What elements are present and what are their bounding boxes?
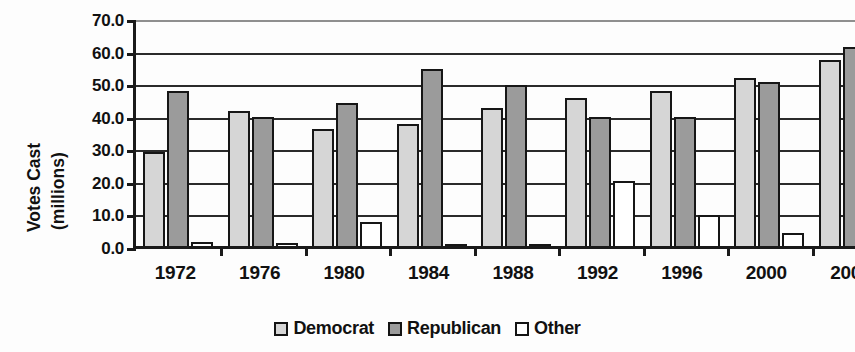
- bar-republican-1992: [589, 117, 611, 246]
- legend-swatch-democrat-icon: [274, 322, 288, 336]
- x-axis-tick-label-1984: 1984: [408, 262, 449, 284]
- bar-democrat-1984: [397, 124, 419, 246]
- plot-area: [133, 21, 855, 249]
- x-axis-tick-mark: [305, 246, 308, 256]
- bar-other-1992: [613, 181, 635, 246]
- bar-democrat-1992: [565, 98, 587, 246]
- x-axis-tick-label-1980: 1980: [324, 262, 365, 284]
- bar-republican-1976: [252, 117, 274, 246]
- legend-swatch-republican-icon: [388, 322, 402, 336]
- y-axis-tick-label: 20.0: [92, 174, 124, 194]
- chart-legend: DemocratRepublicanOther: [0, 318, 855, 339]
- bar-group-1976: [220, 21, 304, 246]
- x-axis-tick-label-1972: 1972: [155, 262, 196, 284]
- bar-group-2000: [727, 21, 811, 246]
- bar-republican-1988: [505, 85, 527, 246]
- bar-other-1996: [698, 215, 720, 246]
- bar-democrat-1972: [143, 152, 165, 246]
- legend-label: Democrat: [293, 318, 374, 339]
- bar-other-2000: [782, 233, 804, 246]
- bar-republican-1980: [336, 103, 358, 246]
- x-axis-tick-mark: [727, 246, 730, 256]
- bar-other-1972: [191, 242, 213, 246]
- y-axis-tick-mark: [127, 20, 136, 23]
- bar-group-1980: [305, 21, 389, 246]
- x-axis-tick-labels: 197219761980198419881992199620002004: [133, 262, 855, 292]
- bar-democrat-2000: [734, 78, 756, 246]
- y-axis-tick-mark: [127, 53, 136, 56]
- legend-item-democrat[interactable]: Democrat: [274, 318, 374, 339]
- bar-other-1988: [529, 244, 551, 246]
- bar-republican-2000: [758, 82, 780, 246]
- x-axis-tick-label-1992: 1992: [577, 262, 618, 284]
- bar-other-1976: [276, 243, 298, 246]
- x-axis-tick-label-2000: 2000: [746, 262, 787, 284]
- y-axis-tick-mark: [127, 248, 136, 251]
- x-axis-tick-mark: [389, 246, 392, 256]
- bar-republican-1984: [421, 69, 443, 247]
- x-axis-tick-mark: [558, 246, 561, 256]
- x-axis-tick-mark: [220, 246, 223, 256]
- legend-swatch-other-icon: [515, 322, 529, 336]
- bar-republican-2004: [843, 47, 855, 246]
- y-axis-tick-mark: [127, 215, 136, 218]
- bar-other-1980: [360, 222, 382, 246]
- bar-democrat-1980: [312, 129, 334, 246]
- x-axis-tick-mark: [474, 246, 477, 256]
- bar-republican-1996: [674, 117, 696, 246]
- bar-democrat-1976: [228, 111, 250, 246]
- bar-democrat-1988: [481, 108, 503, 246]
- y-axis-title-line-1: Votes Cast: [24, 143, 45, 232]
- x-axis-tick-label-1996: 1996: [661, 262, 702, 284]
- y-axis-tick-mark: [127, 183, 136, 186]
- x-axis-tick-label-1988: 1988: [492, 262, 533, 284]
- bar-group-1996: [643, 21, 727, 246]
- legend-label: Republican: [407, 318, 501, 339]
- y-axis-tick-mark: [127, 150, 136, 153]
- bar-group-1988: [474, 21, 558, 246]
- votes-cast-bar-chart: Votes Cast (millions) 0.010.020.030.040.…: [0, 0, 855, 352]
- bar-democrat-2004: [819, 60, 841, 246]
- x-axis-tick-mark: [812, 246, 815, 256]
- bar-group-1972: [136, 21, 220, 246]
- y-axis-tick-mark: [127, 85, 136, 88]
- y-axis-tick-label: 10.0: [92, 206, 124, 226]
- y-axis-tick-mark: [127, 118, 136, 121]
- legend-item-other[interactable]: Other: [515, 318, 581, 339]
- bar-group-2004: [812, 21, 855, 246]
- legend-item-republican[interactable]: Republican: [388, 318, 501, 339]
- legend-label: Other: [534, 318, 581, 339]
- bar-group-1992: [558, 21, 642, 246]
- x-axis-tick-mark: [643, 246, 646, 256]
- y-axis-tick-label: 40.0: [92, 109, 124, 129]
- bar-democrat-1996: [650, 91, 672, 246]
- y-axis-tick-label: 70.0: [92, 11, 124, 31]
- x-axis-tick-label-1976: 1976: [239, 262, 280, 284]
- y-axis-tick-label: 50.0: [92, 76, 124, 96]
- y-axis-tick-label: 30.0: [92, 141, 124, 161]
- y-axis-tick-label: 60.0: [92, 44, 124, 64]
- y-axis-tick-label: 0.0: [101, 239, 124, 259]
- x-axis-tick-label-2004: 2004: [830, 262, 855, 284]
- y-axis-tick-labels: 0.010.020.030.040.050.060.070.0: [44, 21, 128, 249]
- bar-republican-1972: [167, 91, 189, 246]
- bar-other-1984: [445, 244, 467, 246]
- bar-group-1984: [389, 21, 473, 246]
